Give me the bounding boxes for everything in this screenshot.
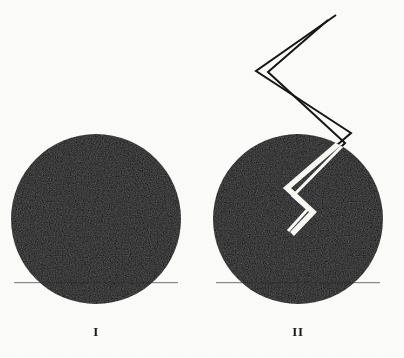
panel-i-group [11,134,181,304]
figure-canvas [0,0,404,358]
scan-seam-i [14,282,178,283]
figure-container: I II [0,0,404,358]
panel-label-i: I [93,324,99,340]
sphere-i [11,134,181,304]
panel-label-ii: II [292,324,303,340]
scan-seam-ii [216,282,380,283]
